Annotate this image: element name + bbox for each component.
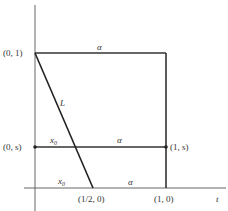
label-x0-middle: x0 [49,135,57,146]
label-line-L: L [59,98,65,108]
label-point-0-s: (0, s) [3,142,22,152]
label-point-half-0: (1/2, 0) [78,194,105,204]
point-1-s-dot [164,145,168,149]
homotopy-diagram: (0, 1) (0, s) (1, s) (1/2, 0) (1, 0) t α… [0,0,228,211]
label-point-0-1: (0, 1) [3,48,23,58]
label-point-1-s: (1, s) [170,142,189,152]
label-alpha-top: α [97,42,102,52]
line-L [35,53,93,188]
label-alpha-middle: α [117,135,122,145]
label-x0-bottom: x0 [57,176,65,187]
label-point-1-0: (1, 0) [154,194,174,204]
axis-label-t: t [216,194,219,204]
point-0-s-dot [33,145,37,149]
label-alpha-bottom: α [128,177,133,187]
